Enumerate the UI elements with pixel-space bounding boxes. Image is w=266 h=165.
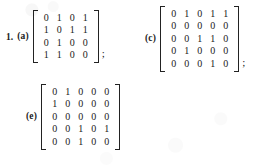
left-bracket-icon xyxy=(33,10,38,63)
matrix-cell: 0 xyxy=(167,33,180,46)
matrix-cell: 0 xyxy=(167,45,180,58)
matrix-cell: 0 xyxy=(87,86,100,99)
matrix-cell: 1 xyxy=(74,136,87,149)
matrix-c: 0101100000001100100000010 xyxy=(160,6,239,72)
matrix-e: 0100010000000000010100100 xyxy=(41,84,120,150)
matrix-cell: 0 xyxy=(167,8,180,21)
matrix-cell: 0 xyxy=(61,123,74,136)
matrix-cell: 0 xyxy=(167,58,180,71)
matrix-cell: 0 xyxy=(100,111,113,124)
right-bracket-icon xyxy=(115,84,120,150)
matrix-label-c: (c) xyxy=(145,33,160,44)
matrix-cell: 1 xyxy=(219,8,232,21)
matrix-cell: 0 xyxy=(193,45,206,58)
matrix-a: 0101101101001100 xyxy=(33,10,99,63)
matrix-cell: 0 xyxy=(100,136,113,149)
matrix-cell: 0 xyxy=(61,136,74,149)
matrix-cell: 0 xyxy=(167,20,180,33)
matrix-cell: 0 xyxy=(219,33,232,46)
matrix-cell: 0 xyxy=(74,98,87,111)
matrix-cell: 1 xyxy=(40,24,53,37)
matrix-cell: 1 xyxy=(74,123,87,136)
matrix-cell: 0 xyxy=(219,45,232,58)
matrix-cell: 1 xyxy=(53,49,66,62)
left-bracket-icon xyxy=(160,6,165,72)
matrix-grid-c: 0101100000001100100000010 xyxy=(166,6,233,72)
matrix-cell: 0 xyxy=(40,12,53,25)
matrix-cell: 0 xyxy=(40,37,53,50)
matrix-cell: 0 xyxy=(87,98,100,111)
matrix-cell: 0 xyxy=(193,20,206,33)
matrix-cell: 0 xyxy=(61,111,74,124)
matrix-cell: 1 xyxy=(206,58,219,71)
matrix-cell: 0 xyxy=(61,98,74,111)
matrix-cell: 1 xyxy=(206,33,219,46)
matrix-cell: 0 xyxy=(79,49,92,62)
matrix-cell: 1 xyxy=(193,33,206,46)
matrix-grid-a: 0101101101001100 xyxy=(39,10,93,63)
matrix-cell: 0 xyxy=(66,12,79,25)
matrix-cell: 0 xyxy=(206,20,219,33)
matrix-cell: 0 xyxy=(74,111,87,124)
matrix-cell: 0 xyxy=(87,111,100,124)
matrix-cell: 0 xyxy=(79,37,92,50)
document-page: 1. (a) 0101101101001100 ; (c) 0101100000… xyxy=(0,0,266,165)
matrix-cell: 0 xyxy=(219,20,232,33)
matrix-cell: 0 xyxy=(66,37,79,50)
matrix-expression-a: 1. (a) 0101101101001100 ; xyxy=(6,10,105,63)
matrix-cell: 0 xyxy=(180,20,193,33)
matrix-expression-c: (c) 0101100000001100100000010 ; xyxy=(145,6,245,72)
matrix-cell: 1 xyxy=(79,24,92,37)
matrix-cell: 1 xyxy=(61,86,74,99)
matrix-cell: 1 xyxy=(180,8,193,21)
matrix-cell: 0 xyxy=(100,98,113,111)
matrix-cell: 1 xyxy=(180,45,193,58)
matrix-cell: 1 xyxy=(206,8,219,21)
matrix-cell: 0 xyxy=(180,33,193,46)
matrix-expression-e: (e) 0100010000000000010100100 xyxy=(26,84,123,150)
matrix-cell: 1 xyxy=(66,24,79,37)
exercise-number: 1. xyxy=(6,32,17,42)
trailing-semicolon-c: ; xyxy=(239,56,245,72)
matrix-cell: 0 xyxy=(193,58,206,71)
matrix-cell: 1 xyxy=(40,49,53,62)
matrix-cell: 1 xyxy=(100,123,113,136)
matrix-cell: 0 xyxy=(100,86,113,99)
left-bracket-icon xyxy=(41,84,46,150)
matrix-grid-e: 0100010000000000010100100 xyxy=(47,84,114,150)
matrix-cell: 0 xyxy=(87,136,100,149)
matrix-cell: 1 xyxy=(79,12,92,25)
matrix-cell: 0 xyxy=(219,58,232,71)
matrix-cell: 0 xyxy=(48,123,61,136)
matrix-cell: 0 xyxy=(74,86,87,99)
trailing-punct-e xyxy=(120,146,123,150)
matrix-cell: 1 xyxy=(53,12,66,25)
matrix-cell: 0 xyxy=(66,49,79,62)
matrix-cell: 0 xyxy=(48,136,61,149)
matrix-cell: 0 xyxy=(180,58,193,71)
matrix-cell: 0 xyxy=(48,86,61,99)
matrix-cell: 0 xyxy=(48,111,61,124)
matrix-cell: 0 xyxy=(206,45,219,58)
matrix-label-e: (e) xyxy=(26,111,41,122)
matrix-cell: 0 xyxy=(193,8,206,21)
matrix-cell: 0 xyxy=(87,123,100,136)
matrix-cell: 1 xyxy=(48,98,61,111)
trailing-semicolon-a: ; xyxy=(99,47,105,63)
matrix-cell: 0 xyxy=(53,24,66,37)
matrix-label-a: (a) xyxy=(17,31,33,42)
matrix-cell: 1 xyxy=(53,37,66,50)
